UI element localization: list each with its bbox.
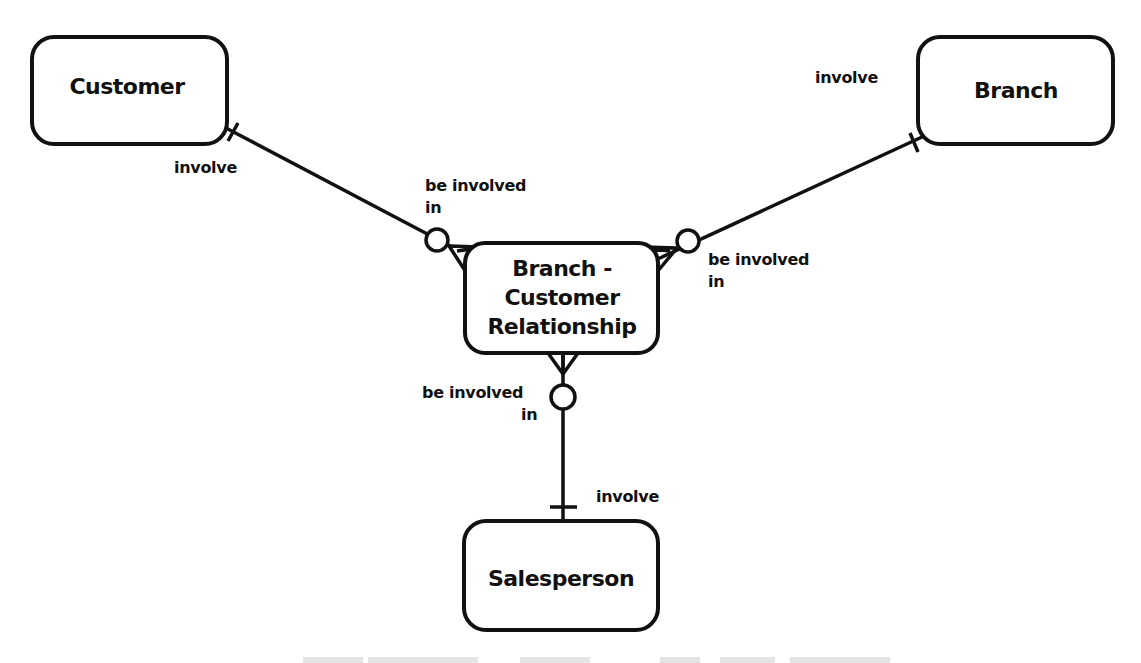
entity-customer-label: Customer (69, 74, 185, 99)
customer-bcr-line (224, 127, 452, 247)
salesperson-role-label: involve (596, 487, 659, 506)
customer-bcr-role-label-line2: in (425, 198, 441, 217)
branch-bcr-role-label-line1: be involved (708, 250, 809, 269)
entity-customer[interactable]: Customer (32, 37, 227, 144)
entity-branch-label: Branch (974, 78, 1058, 103)
branch-side-optional-circle (677, 230, 699, 252)
cropped-caption-fragment (303, 657, 890, 663)
branch-bcr-role-label-line2: in (708, 272, 724, 291)
entity-bcr-label-line1: Branch - (512, 256, 612, 281)
customer-role-label: involve (174, 158, 237, 177)
entity-branch[interactable]: Branch (918, 37, 1113, 144)
er-diagram: Customer Branch Branch - Customer Relati… (0, 0, 1141, 663)
salesperson-bcr-role-label-line2: in (521, 405, 537, 424)
customer-side-optional-circle (426, 229, 448, 251)
branch-role-label: involve (815, 68, 878, 87)
salesperson-side-optional-circle (551, 385, 575, 409)
salesperson-side-crows-foot (548, 353, 578, 374)
customer-bcr-role-label-line1: be involved (425, 176, 526, 195)
salesperson-bcr-role-label-line1: be involved (422, 383, 523, 402)
entity-salesperson-label: Salesperson (488, 566, 634, 591)
entity-salesperson[interactable]: Salesperson (464, 521, 658, 630)
entity-bcr-label-line3: Relationship (487, 314, 636, 339)
entity-bcr-label-line2: Customer (504, 285, 620, 310)
entity-branch-customer-relationship[interactable]: Branch - Customer Relationship (465, 243, 658, 353)
